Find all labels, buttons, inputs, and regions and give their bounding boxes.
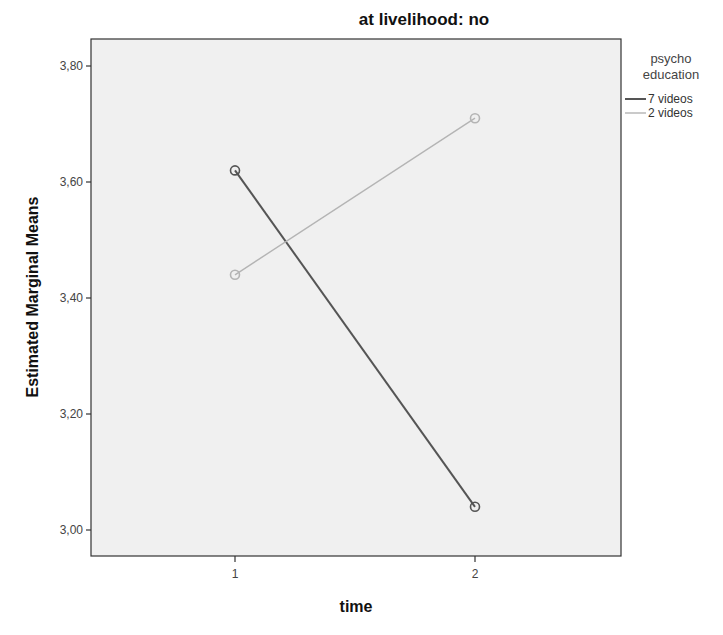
legend: psycho education 7 videos2 videos	[625, 51, 699, 120]
legend-label: 7 videos	[648, 92, 693, 106]
legend-entries: 7 videos2 videos	[625, 92, 693, 120]
y-tick-label: 3,60	[60, 175, 84, 189]
interaction-line-chart: at livelihood: no 3,003,203,403,603,80 1…	[0, 0, 723, 635]
y-axis: 3,003,203,403,603,80	[60, 59, 91, 537]
x-axis: 12	[232, 556, 479, 581]
plot-area	[91, 39, 621, 556]
y-tick-label: 3,00	[60, 523, 84, 537]
x-axis-title: time	[340, 598, 373, 615]
y-tick-label: 3,80	[60, 59, 84, 73]
x-tick-label: 1	[232, 567, 239, 581]
y-tick-label: 3,20	[60, 407, 84, 421]
legend-title-line-2: education	[643, 67, 699, 82]
x-tick-label: 2	[472, 567, 479, 581]
legend-title-line-1: psycho	[650, 51, 691, 66]
chart-title: at livelihood: no	[359, 10, 489, 29]
legend-label: 2 videos	[648, 106, 693, 120]
y-tick-label: 3,40	[60, 291, 84, 305]
y-axis-title: Estimated Marginal Means	[24, 196, 41, 397]
